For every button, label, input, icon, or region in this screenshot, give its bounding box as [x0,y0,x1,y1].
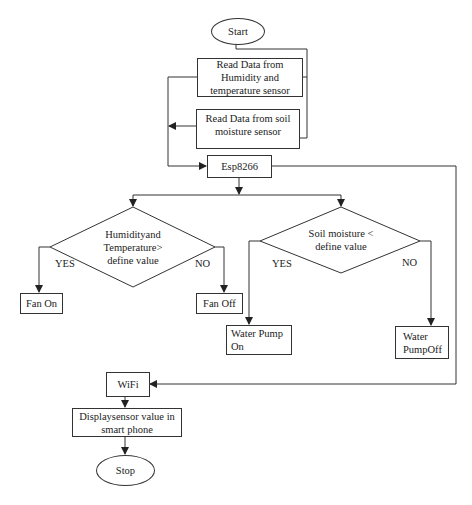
no-label-left: NO [195,258,210,269]
water-pump-on-label: Water Pump On [231,327,286,353]
start-terminal: Start [211,18,265,45]
read-soil-box: Read Data from soil moisture sensor [196,109,300,149]
start-label: Start [228,25,248,38]
stop-label: Stop [116,464,135,477]
fan-on-box: Fan On [20,293,63,314]
wifi-label: WiFi [117,378,138,391]
wifi-box: WiFi [106,372,150,397]
fan-on-label: Fan On [26,297,57,310]
stop-terminal: Stop [96,455,155,486]
yes-label-left: YES [55,258,75,269]
display-label: Displaysensor value in smart phone [77,410,177,436]
esp8266-label: Esp8266 [221,160,258,173]
fan-off-box: Fan Off [196,293,243,314]
no-label-right: NO [402,257,417,268]
read-humidity-box: Read Data from Humidity and temperature … [197,58,303,97]
read-soil-label: Read Data from soil moisture sensor [197,109,299,149]
read-humidity-label: Read Data from Humidity and temperature … [198,58,302,97]
decision-humidity-text: Humidityand Temperature> define value [98,228,168,267]
display-box: Displaysensor value in smart phone [72,408,182,437]
water-pump-on-box: Water Pump On [226,325,292,355]
yes-label-right: YES [272,258,292,269]
water-pump-off-label: Water PumpOff [403,330,443,356]
fan-off-label: Fan Off [203,297,236,310]
decision-soil-text: Soil moisture < define value [296,227,386,253]
esp8266-box: Esp8266 [207,155,272,178]
water-pump-off-box: Water PumpOff [395,326,449,359]
